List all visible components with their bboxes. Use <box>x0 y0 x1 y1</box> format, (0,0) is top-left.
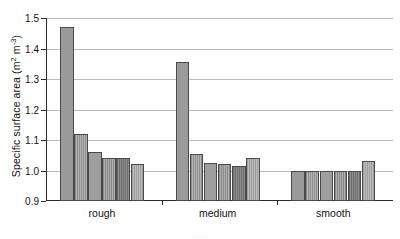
figure-caption-cropped: ....... <box>0 230 400 239</box>
y-tick-mark <box>41 18 46 19</box>
bar <box>218 164 232 201</box>
bar <box>74 134 88 201</box>
bar <box>131 164 145 201</box>
bar <box>348 171 362 202</box>
bar <box>246 158 260 201</box>
y-tick-label: 1.4 <box>25 43 39 54</box>
bar-group-medium <box>176 18 260 201</box>
y-tick-mark <box>41 171 46 172</box>
y-tick-mark <box>41 49 46 50</box>
y-tick-label: 0.9 <box>25 196 39 207</box>
x-axis-separator <box>277 201 278 205</box>
y-axis-title: Specific surface area (m2 m-3) <box>10 6 22 206</box>
bar-group-rough <box>60 18 144 201</box>
bar <box>291 171 305 202</box>
bar <box>320 171 334 202</box>
y-tick-label: 1.1 <box>25 135 39 146</box>
x-axis-label-smooth: smooth <box>316 207 350 219</box>
plot-area: 0.91.01.11.21.31.41.5 <box>46 18 393 201</box>
bar <box>334 171 348 202</box>
bar <box>305 171 319 202</box>
y-tick-mark <box>41 110 46 111</box>
y-tick-label: 1.3 <box>25 74 39 85</box>
chart-figure: Specific surface area (m2 m-3) 0.91.01.1… <box>0 0 400 239</box>
y-axis-title-sup-2: -3 <box>9 38 18 45</box>
bar <box>102 158 116 201</box>
y-axis-title-text-mid: m <box>10 45 22 57</box>
y-tick-mark <box>41 201 46 202</box>
bar <box>232 166 246 201</box>
y-tick-label: 1.0 <box>25 165 39 176</box>
bar <box>176 62 190 201</box>
bar-group-smooth <box>291 18 375 201</box>
bar <box>60 27 74 201</box>
y-tick-mark <box>41 79 46 80</box>
x-axis-label-medium: medium <box>199 207 236 219</box>
bar <box>362 161 376 201</box>
y-axis-title-sup-1: 2 <box>9 57 18 61</box>
y-tick-label: 1.5 <box>25 13 39 24</box>
y-tick-label: 1.2 <box>25 104 39 115</box>
y-tick-mark <box>41 140 46 141</box>
bar <box>88 152 102 201</box>
x-axis-separator <box>162 201 163 205</box>
bar <box>190 154 204 201</box>
bar <box>116 158 130 201</box>
x-axis-label-rough: rough <box>89 207 116 219</box>
bar <box>204 163 218 201</box>
y-axis-title-text-end: ) <box>10 35 22 39</box>
y-axis-title-text: Specific surface area (m <box>10 62 22 178</box>
